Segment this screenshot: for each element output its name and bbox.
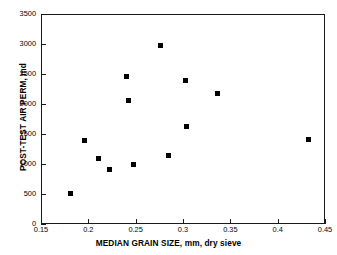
x-tick-label: 0.15 xyxy=(24,226,58,234)
x-tick xyxy=(325,219,326,224)
scatter-chart: 0500100015002000250030003500 0.150.20.25… xyxy=(0,0,337,255)
data-point xyxy=(166,153,171,158)
y-tick xyxy=(41,104,46,105)
data-point xyxy=(183,78,188,83)
x-tick xyxy=(88,219,89,224)
x-tick-label: 0.25 xyxy=(119,226,153,234)
y-tick xyxy=(41,164,46,165)
x-tick xyxy=(230,219,231,224)
x-tick xyxy=(278,219,279,224)
x-tick-label: 0.4 xyxy=(261,226,295,234)
data-point xyxy=(306,137,311,142)
x-axis-title: MEDIAN GRAIN SIZE, mm, dry sieve xyxy=(0,238,337,248)
data-point xyxy=(96,156,101,161)
data-point xyxy=(68,191,73,196)
x-tick xyxy=(183,219,184,224)
x-tick-label: 0.2 xyxy=(71,226,105,234)
y-axis-title: POST-TEST AIR PERM, md xyxy=(18,27,28,207)
y-tick xyxy=(41,14,46,15)
y-tick xyxy=(41,74,46,75)
data-point xyxy=(131,162,136,167)
data-point xyxy=(107,167,112,172)
y-tick xyxy=(41,194,46,195)
data-point xyxy=(124,74,129,79)
data-point xyxy=(158,43,163,48)
y-tick-label: 3500 xyxy=(4,10,36,18)
data-point xyxy=(184,124,189,129)
x-tick-label: 0.3 xyxy=(166,226,200,234)
y-tick xyxy=(41,44,46,45)
x-tick-label: 0.45 xyxy=(308,226,337,234)
data-point xyxy=(82,138,87,143)
x-tick-label: 0.35 xyxy=(213,226,247,234)
data-point xyxy=(126,98,131,103)
data-point xyxy=(215,91,220,96)
y-tick xyxy=(41,134,46,135)
plot-area xyxy=(41,14,325,224)
x-tick xyxy=(41,219,42,224)
x-tick xyxy=(136,219,137,224)
